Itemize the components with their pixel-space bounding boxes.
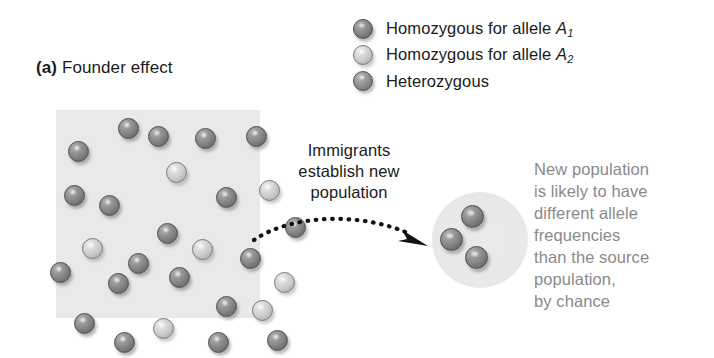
immigrants-caption: Immigrants establish new population (266, 140, 432, 203)
panel-title-text: Founder effect (62, 58, 173, 77)
result-line: different allele (534, 202, 712, 224)
source-population-sphere (274, 272, 295, 293)
source-population-sphere (50, 262, 71, 283)
result-line: by chance (534, 290, 712, 312)
source-population-sphere (166, 162, 187, 183)
source-population-sphere (157, 223, 178, 244)
legend-item-homozygous-a2: Homozygous for allele A2 (353, 42, 573, 68)
source-population-sphere (118, 118, 139, 139)
allele-symbol-a1: A (556, 19, 567, 37)
dotted-migration-arrow-icon (252, 206, 442, 262)
legend: Homozygous for allele A1 Homozygous for … (353, 16, 573, 94)
source-population-sphere (252, 300, 273, 321)
caption-line: establish new (266, 161, 432, 182)
legend-item-label: Homozygous for allele A2 (386, 45, 573, 65)
sphere-dark-icon (353, 19, 373, 39)
panel-label: (a) (36, 58, 57, 77)
allele-symbol-a2: A (556, 45, 567, 63)
arrow-dotted-path (254, 219, 410, 240)
result-line: New population (534, 158, 712, 180)
legend-item-label: Heterozygous (386, 72, 489, 91)
source-population-sphere (216, 296, 237, 317)
source-population-sphere (153, 318, 174, 339)
source-population-sphere (99, 195, 120, 216)
new-population-sphere (440, 228, 463, 251)
arrow-head (398, 230, 428, 246)
new-population-sphere (465, 246, 488, 269)
sphere-light-icon (353, 45, 373, 65)
legend-text-heterozygous: Heterozygous (386, 72, 489, 90)
source-population-sphere (148, 126, 169, 147)
new-population-sphere (461, 205, 484, 228)
source-population-sphere (128, 253, 149, 274)
page-title: (a) Founder effect (36, 58, 173, 78)
source-population-sphere (169, 267, 190, 288)
legend-item-label: Homozygous for allele A1 (386, 19, 573, 39)
result-line: population, (534, 268, 712, 290)
result-description: New population is likely to have differe… (534, 158, 712, 312)
source-population-sphere (114, 332, 135, 353)
source-population-sphere (108, 273, 129, 294)
founder-effect-figure: (a) Founder effect Homozygous for allele… (0, 0, 714, 358)
source-population-sphere (216, 187, 237, 208)
result-line: than the source (534, 246, 712, 268)
allele-subscript-1: 1 (567, 27, 573, 39)
caption-line: Immigrants (266, 140, 432, 161)
source-population-sphere (246, 126, 267, 147)
source-population-sphere (267, 330, 288, 351)
source-population-sphere (208, 332, 229, 353)
source-population-box (56, 110, 260, 318)
source-population-sphere (68, 141, 89, 162)
new-population-circle (432, 192, 528, 288)
result-line: is likely to have (534, 180, 712, 202)
source-population-sphere (82, 238, 103, 259)
legend-item-homozygous-a1: Homozygous for allele A1 (353, 16, 573, 42)
legend-text-homozygous-a2: Homozygous for allele (386, 45, 556, 63)
legend-item-heterozygous: Heterozygous (353, 68, 573, 94)
sphere-mid-icon (353, 71, 373, 91)
source-population-sphere (192, 239, 213, 260)
source-population-sphere (195, 128, 216, 149)
source-population-sphere (74, 313, 95, 334)
caption-line: population (266, 182, 432, 203)
legend-text-homozygous-a1: Homozygous for allele (386, 19, 556, 37)
source-population-sphere (64, 185, 85, 206)
allele-subscript-2: 2 (567, 53, 573, 65)
result-line: frequencies (534, 224, 712, 246)
